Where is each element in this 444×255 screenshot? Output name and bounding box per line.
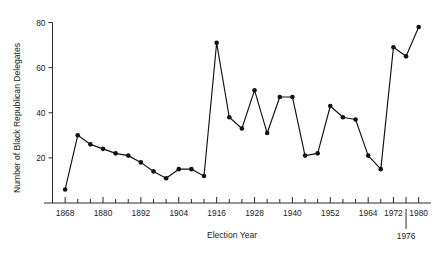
data-point-1920 xyxy=(227,115,232,120)
data-point-1896 xyxy=(151,169,156,174)
data-point-1908 xyxy=(189,167,194,172)
data-point-1900 xyxy=(164,176,169,181)
line-chart: 2040608018681880189219041916192819401952… xyxy=(0,0,444,255)
x-tick-label-1880: 1880 xyxy=(94,208,113,218)
data-point-1956 xyxy=(341,115,346,120)
data-point-1932 xyxy=(265,131,270,136)
chart-container: 2040608018681880189219041916192819401952… xyxy=(0,0,444,255)
data-point-1948 xyxy=(315,151,320,156)
axes-group xyxy=(44,23,431,204)
data-point-1952 xyxy=(328,104,333,109)
x-tick-label-1952: 1952 xyxy=(321,208,340,218)
x-tick-label-1972: 1972 xyxy=(384,208,403,218)
data-point-1888 xyxy=(126,153,131,158)
tick-labels-group: 2040608018681880189219041916192819401952… xyxy=(36,18,428,219)
data-point-1940 xyxy=(290,95,295,100)
data-point-1980 xyxy=(416,25,421,30)
x-tick-label-1928: 1928 xyxy=(245,208,264,218)
data-point-1972 xyxy=(391,45,396,50)
data-point-1928 xyxy=(252,88,257,93)
x-tick-label-1940: 1940 xyxy=(283,208,302,218)
data-point-1912 xyxy=(202,174,207,179)
data-point-1944 xyxy=(303,153,308,158)
data-point-1884 xyxy=(113,151,118,156)
x-axis-title: Election Year xyxy=(207,230,257,240)
data-point-1936 xyxy=(277,95,282,100)
data-point-1960 xyxy=(353,117,358,122)
data-point-1916 xyxy=(214,41,219,46)
data-point-1876 xyxy=(88,142,93,147)
tick-marks-group xyxy=(49,23,419,230)
x-tick-label-1964: 1964 xyxy=(359,208,378,218)
data-point-1868 xyxy=(63,187,68,192)
data-point-1976 xyxy=(404,54,409,59)
x-axis-offset-label-1976: 1976 xyxy=(397,231,416,241)
y-tick-label-60: 60 xyxy=(36,63,46,73)
series-line-black-republican-delegates xyxy=(65,27,419,189)
data-point-1968 xyxy=(379,167,384,172)
data-point-1904 xyxy=(176,167,181,172)
data-point-1924 xyxy=(240,126,245,131)
data-point-1872 xyxy=(75,133,80,138)
data-point-1892 xyxy=(139,160,144,165)
y-axis-title: Number of Black Republican Delegates xyxy=(12,43,22,193)
x-tick-label-1916: 1916 xyxy=(207,208,226,218)
x-tick-label-1980: 1980 xyxy=(409,208,428,218)
data-point-1964 xyxy=(366,153,371,158)
y-tick-label-80: 80 xyxy=(36,18,46,28)
x-tick-label-1904: 1904 xyxy=(169,208,188,218)
x-tick-label-1868: 1868 xyxy=(56,208,75,218)
y-tick-label-20: 20 xyxy=(36,153,46,163)
y-tick-label-40: 40 xyxy=(36,108,46,118)
x-tick-label-1892: 1892 xyxy=(132,208,151,218)
data-series-group xyxy=(63,25,421,192)
data-point-1880 xyxy=(101,147,106,152)
